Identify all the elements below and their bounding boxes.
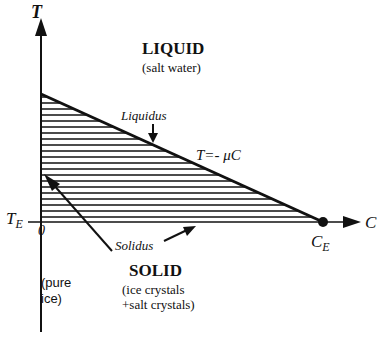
solid-region-subtitle-1: (ice crystals [122, 283, 184, 296]
eutectic-point [318, 217, 328, 227]
two-phase-hatching [40, 97, 330, 217]
liquid-region-subtitle: (salt water) [142, 61, 201, 74]
solidus-pointer-arrow-horizontal [164, 230, 187, 241]
ce-label: CE [311, 233, 330, 253]
solid-region-title: SOLID [129, 262, 182, 279]
liquidus-label: Liquidus [121, 109, 167, 122]
liquidus-pointer-arrowhead [148, 133, 158, 143]
origin-label: 0 [38, 224, 45, 238]
c-axis-arrowhead [343, 216, 361, 228]
t-axis-label: T [31, 3, 42, 21]
liquidus-line [41, 94, 323, 222]
solid-region-subtitle-2: +salt crystals) [122, 298, 195, 311]
solidus-label: Solidus [115, 239, 153, 252]
liquidus-equation: T=- μC [196, 148, 241, 163]
liquid-region-title: LIQUID [142, 40, 204, 57]
pure-ice-label-1: (pure [41, 276, 71, 289]
c-axis-label: C [365, 214, 376, 231]
pure-ice-label-2: ice) [41, 292, 62, 305]
te-label: TE [6, 210, 23, 230]
solidus-arrowhead-right [183, 226, 196, 236]
